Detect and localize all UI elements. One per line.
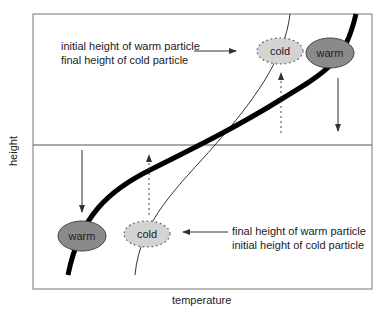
warm-particle-bottom-label: warm <box>65 229 99 243</box>
cold-particle-top-label: cold <box>265 44 295 58</box>
bottom-annotation-line1: final height of warm particle <box>232 224 366 238</box>
y-axis-label: height <box>6 136 20 166</box>
top-annotation-line1: initial height of warm particle <box>61 39 200 53</box>
top-annotation-line2: final height of cold particle <box>61 53 188 67</box>
x-axis-label: temperature <box>172 293 231 307</box>
bottom-annotation-line2: initial height of cold particle <box>232 238 364 252</box>
warm-particle-top-label: warm <box>313 46 347 60</box>
cold-particle-bottom-label: cold <box>132 227 162 241</box>
